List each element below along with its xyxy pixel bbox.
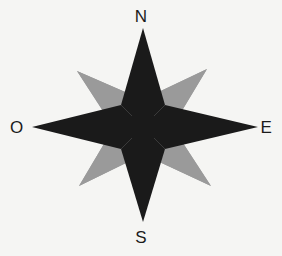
label-south: S [0, 229, 282, 246]
label-north: N [0, 8, 282, 25]
compass-rose-graphic [0, 0, 282, 256]
compass-rose-figure: N E S O [0, 0, 282, 256]
label-west: O [10, 119, 23, 136]
label-east: E [260, 119, 272, 136]
